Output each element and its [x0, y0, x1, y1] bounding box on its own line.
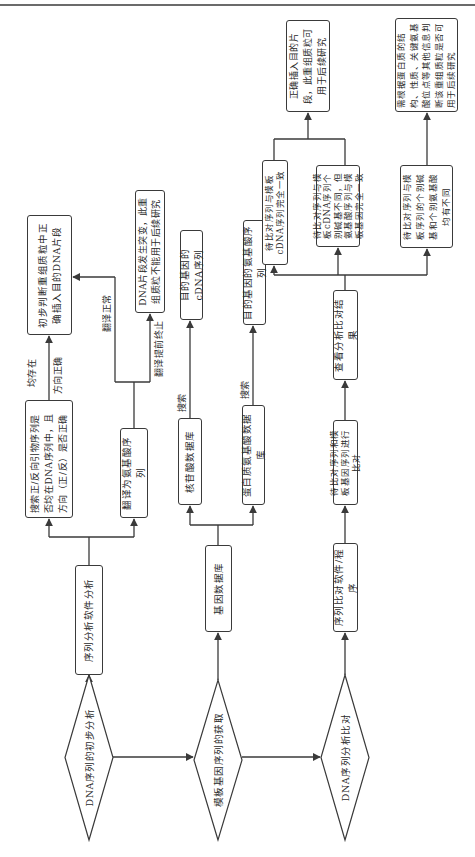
node-translate-aa: 翻译为氨基酸序列 — [120, 428, 148, 518]
node-prelim-judge: 初步判断重组质粒中正确插入目的DNA片段 — [27, 215, 72, 335]
node-base-and-aa-diff: 待比对序列与模板序列的个别碱基和个别氨基酸均有不同 — [400, 165, 453, 248]
decision-dna-alignment: DNA序列分析比对 — [321, 675, 369, 840]
edge-label-search-protein: 搜索 — [239, 380, 251, 399]
decision-template-acquisition: 模板基因序列的获取 — [194, 680, 242, 840]
edge-label-direction-correct: 方向正确 — [52, 356, 64, 394]
node-correct-insert: 正确插入目的片段，此重组质粒可用于后续研究 — [286, 20, 330, 112]
node-seq-software: 序列分析软件分析 — [75, 565, 103, 675]
diamond-label: DNA序列分析比对 — [321, 675, 369, 840]
edge-label-search-nucleotide: 搜索 — [176, 393, 188, 412]
node-protein-db: 蛋白质氨基酸数据库 — [242, 405, 265, 505]
node-align-software: 序列比对软件/程序 — [333, 543, 358, 632]
flowchart-canvas: DNA序列的初步分析 模板基因序列的获取 DNA序列分析比对 序列分析软件分析 … — [0, 0, 475, 857]
diamond-label: DNA序列的初步分析 — [65, 675, 113, 840]
node-base-diff-aa-same: 待比对序列与模板cDNA序列个别碱基不同，但氨基酸序列与模板基因完全一致 — [316, 165, 360, 247]
decision-dna-initial-analysis: DNA序列的初步分析 — [65, 675, 113, 840]
edge-label-both-exist: 均存在 — [26, 359, 38, 388]
node-mutation: DNA片段发生突变，此重组质粒不能用于后续研究 — [135, 190, 165, 313]
edge-label-translation-normal: 翻译正常 — [101, 294, 113, 332]
node-nucleotide-db: 核苷酸数据库 — [178, 418, 202, 505]
node-need-protein-check: 需根据蛋白质的结构、性质、关键氨基酸位点等其他信息判断该重组质粒是否可用于后续研… — [395, 18, 458, 112]
node-target-cdna: 目的基因的cDNA序列 — [180, 230, 203, 320]
edge-label-translation-early-stop: 翻译提前终止 — [153, 320, 165, 377]
diamond-label: 模板基因序列的获取 — [194, 680, 242, 840]
node-view-results: 查看分析比对结果 — [333, 290, 358, 380]
node-primer-search: 搜索正/反向引物序列是否均在DNA序列中，且方向（正/反）是否正确 — [25, 400, 73, 518]
node-fully-match: 待比对序列与模板cDNA序列完全一致 — [262, 160, 288, 265]
node-align-step: 待比对序列和模板基因序列进行比对 — [333, 420, 358, 505]
node-gene-db: 基因数据库 — [205, 545, 232, 632]
